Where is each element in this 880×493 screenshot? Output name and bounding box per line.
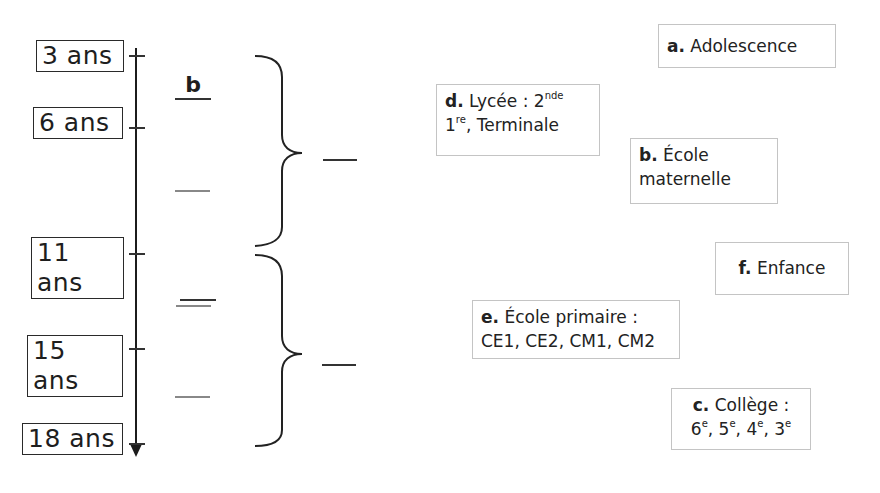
label-f-enfance: f. Enfance [715,242,849,295]
label-letter: b. [639,145,658,165]
example-answer: b [175,74,211,100]
label-a-adolescence: a. Adolescence [658,24,836,68]
superscript: e [785,418,791,429]
label-letter: f. [739,258,752,278]
tick-3 [129,55,145,57]
brace-3-11 [250,55,310,250]
grade-number: 3 [774,419,785,439]
timeline-axis [135,48,137,448]
age-label-11: 11 ans [31,237,124,299]
label-text: CE1, CE2, CM1, CM2 [481,329,671,353]
separator: , [708,419,719,439]
grade-number: 4 [746,419,757,439]
answer-blank-15-18[interactable] [175,396,210,398]
age-label-6: 6 ans [33,107,123,139]
label-c-college: c. Collège : 6e, 5e, 4e, 3e [671,388,811,450]
brace-11-18 [250,252,310,447]
tick-18 [129,443,145,445]
answer-blank-6-11[interactable] [175,190,210,192]
label-text: École primaire : [504,307,638,327]
label-text: 1 [445,115,456,135]
age-label-3: 3 ans [36,40,124,72]
grade-number: 6 [691,419,702,439]
label-letter: e. [481,307,499,327]
label-text: Enfance [757,258,826,278]
age-label-15: 15 ans [27,335,123,397]
tick-11 [129,253,145,255]
label-text: Collège : [715,395,790,415]
label-b-ecole-maternelle: b. École maternelle [630,138,778,204]
label-letter: a. [667,36,685,56]
answer-blank-11-15-line2 [176,305,211,307]
superscript: re [456,114,466,125]
arrow-down-icon [130,444,142,457]
label-letter: d. [445,91,464,111]
label-d-lycee: d. Lycée : 2nde 1re, Terminale [436,84,600,156]
label-letter: c. [693,395,710,415]
grade-number: 5 [719,419,730,439]
tick-6 [129,127,145,129]
label-text: Lycée : 2 [469,91,545,111]
answer-blank-brace-upper[interactable] [323,159,357,161]
grade-list: 6e, 5e, 4e, 3e [680,417,802,441]
separator: , [763,419,774,439]
separator: , [736,419,747,439]
label-text: Adolescence [690,36,797,56]
label-text: , Terminale [466,115,559,135]
label-text: École [663,145,709,165]
tick-15 [129,348,145,350]
age-label-18: 18 ans [22,423,123,455]
label-e-ecole-primaire: e. École primaire : CE1, CE2, CM1, CM2 [472,300,680,359]
answer-blank-brace-lower[interactable] [322,364,356,366]
label-text: maternelle [639,167,769,191]
superscript: nde [545,90,564,101]
answer-blank-11-15-line1[interactable] [180,299,216,301]
